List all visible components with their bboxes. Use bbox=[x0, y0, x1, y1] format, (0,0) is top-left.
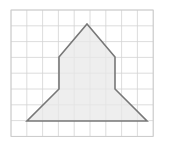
figure-canvas bbox=[0, 0, 173, 144]
pentagon-rocket-shape bbox=[27, 24, 147, 121]
grid-figure-svg bbox=[0, 0, 173, 144]
